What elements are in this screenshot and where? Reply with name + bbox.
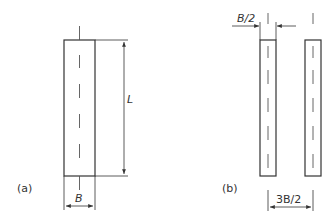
width-label: B	[75, 192, 83, 205]
length-dimension	[95, 40, 128, 176]
spacing-label-text: 3B/2	[276, 193, 301, 206]
figure-a-label: (a)	[17, 182, 32, 195]
diagram-canvas: L B (a)	[0, 0, 334, 216]
length-label: L	[127, 93, 133, 106]
spacing-label: 3B/2	[276, 193, 301, 206]
figure-a: L B (a)	[17, 26, 133, 210]
figure-b-label: (b)	[222, 182, 238, 195]
figure-b: B/2 3B/2 (b)	[222, 12, 321, 211]
gap-label: B/2	[237, 12, 255, 25]
